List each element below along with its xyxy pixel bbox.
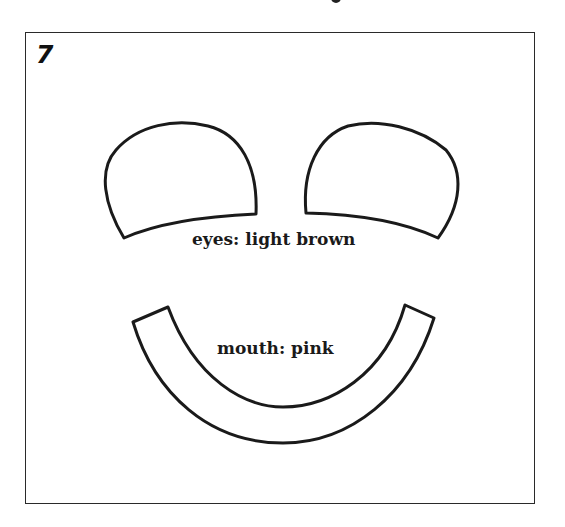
eyes-label: eyes: light brown bbox=[192, 229, 355, 249]
right-eye-shape bbox=[305, 123, 458, 238]
pattern-pieces bbox=[0, 0, 565, 527]
mouth-shape bbox=[133, 305, 434, 443]
mouth-label: mouth: pink bbox=[217, 338, 334, 358]
left-eye-shape bbox=[105, 123, 256, 238]
